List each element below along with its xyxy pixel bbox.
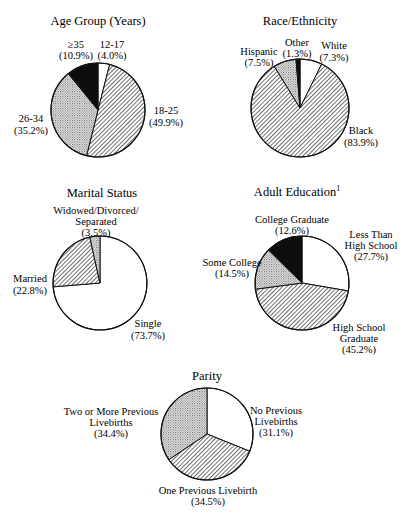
parity-pct-two-plus: (34.4%): [94, 428, 129, 440]
edu-label-hs-grad-1: High School: [333, 322, 386, 333]
race-label-black: Black: [349, 125, 374, 136]
parity-chart: Parity No Previous Livebirths (31.1%) Tw…: [64, 369, 302, 508]
race-label-other: Other: [285, 37, 309, 48]
parity-pct-none: (31.1%): [259, 427, 294, 439]
edu-label-college-grad: College Graduate: [255, 214, 329, 225]
footnote-marker: 1: [336, 184, 340, 193]
age-label-12-17: 12-17: [100, 39, 125, 50]
race-pct-hispanic: (7.5%): [245, 57, 274, 69]
parity-label-none-1: No Previous: [250, 405, 302, 416]
marital-label-widowed-2: Separated: [75, 216, 117, 227]
parity-label-two-plus-1: Two or More Previous: [64, 406, 159, 417]
parity-label-none-2: Livebirths: [254, 416, 297, 427]
race-pct-white: (7.3%): [320, 52, 349, 64]
age-label-18-25: 18-25: [154, 105, 179, 116]
edu-pct-college-grad: (12.6%): [275, 225, 310, 237]
parity-label-two-plus-2: Livebirths: [89, 417, 132, 428]
marital-pct-married: (22.8%): [13, 285, 48, 297]
age-pct-18-25: (49.9%): [149, 117, 184, 129]
marital-label-married: Married: [13, 273, 48, 284]
age-label-26-34: 26-34: [19, 113, 44, 124]
marital-status-title: Marital Status: [67, 186, 138, 200]
edu-label-hs-grad-2: Graduate: [340, 333, 379, 344]
marital-pct-widowed: (3.5%): [82, 227, 111, 239]
age-group-title: Age Group (Years): [50, 14, 145, 28]
age-pct-35plus: (10.9%): [59, 50, 94, 62]
parity-pct-one: (34.5%): [191, 496, 226, 508]
marital-status-chart: Marital Status Widowed/Divorced/ Separat…: [13, 186, 166, 342]
edu-pct-hs-grad: (45.2%): [342, 344, 377, 356]
parity-label-one: One Previous Livebirth: [159, 485, 258, 496]
edu-label-less-hs-2: High School: [345, 240, 398, 251]
adult-education-pie: [255, 236, 349, 330]
marital-pct-single: (73.7%): [131, 330, 166, 342]
edu-label-less-hs-1: Less Than: [349, 229, 393, 240]
race-pct-other: (1.3%): [283, 48, 312, 60]
race-ethnicity-pie: [251, 59, 349, 157]
race-ethnicity-chart: Race/Ethnicity White (7.3%) Other (1.3%)…: [240, 14, 378, 157]
age-group-chart: Age Group (Years) 12-17 (4.0%) ≥35 (10.9…: [14, 14, 184, 157]
edu-pct-less-hs: (27.7%): [354, 251, 389, 263]
age-pct-12-17: (4.0%): [98, 50, 127, 62]
edu-label-some-college: Some College: [202, 257, 262, 268]
race-pct-black: (83.9%): [344, 137, 379, 149]
marital-label-single: Single: [135, 318, 162, 329]
adult-education-title: Adult Education1: [254, 184, 340, 199]
adult-education-chart: Adult Education1 College Graduate (12.6%…: [202, 184, 397, 356]
race-ethnicity-title: Race/Ethnicity: [263, 14, 338, 28]
marital-label-widowed-1: Widowed/Divorced/: [53, 205, 138, 216]
pie-slice: [302, 236, 349, 291]
age-pct-26-34: (35.2%): [14, 125, 49, 137]
age-label-35plus: ≥35: [68, 39, 84, 50]
age-group-pie: [51, 63, 145, 157]
race-label-hispanic: Hispanic: [240, 46, 278, 57]
adult-education-title-text: Adult Education: [254, 185, 337, 199]
edu-pct-some-college: (14.5%): [215, 268, 250, 280]
race-label-white: White: [321, 40, 347, 51]
parity-title: Parity: [192, 369, 223, 383]
parity-pie: [161, 388, 253, 480]
figure-canvas: Age Group (Years) 12-17 (4.0%) ≥35 (10.9…: [0, 0, 413, 518]
marital-status-pie: [53, 236, 147, 330]
